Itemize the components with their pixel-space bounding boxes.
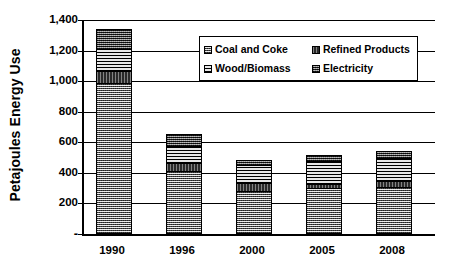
y-tickmark-800	[78, 112, 84, 113]
bar-2000-segment-wood-biomass	[237, 165, 271, 183]
y-axis-title-text: Petajoules Energy Use	[7, 48, 23, 201]
gridline-800	[84, 112, 435, 113]
y-tickmark-600	[78, 142, 84, 143]
bar-1996-segment-refined-products	[167, 163, 201, 171]
bar-1996-segment-coal-and-coke	[167, 171, 201, 233]
bar-2000-segment-coal-and-coke	[237, 191, 271, 233]
legend-item-refined-products[interactable]: Refined Products	[312, 44, 413, 55]
y-axis-title: Petajoules Energy Use	[0, 0, 30, 250]
bar-2000-segment-refined-products	[237, 183, 271, 191]
wood-biomass-swatch-icon	[204, 65, 212, 73]
bar-1996-segment-electricity	[167, 135, 201, 146]
legend-item-coal-and-coke[interactable]: Coal and Coke	[204, 44, 312, 55]
legend-label-coal-and-coke: Coal and Coke	[215, 44, 288, 55]
bar-1990-segment-electricity	[97, 30, 131, 49]
legend-label-wood-biomass: Wood/Biomass	[215, 63, 291, 74]
bar-2008-segment-wood-biomass	[377, 158, 411, 181]
bar-2005	[306, 155, 342, 234]
bar-1996	[166, 134, 202, 234]
bar-2005-segment-wood-biomass	[307, 161, 341, 184]
y-tick-label-800: 800	[34, 106, 78, 118]
chart-legend: Coal and Coke Refined Products Wood/Biom…	[199, 36, 418, 81]
bar-2008-segment-coal-and-coke	[377, 187, 411, 233]
x-tick-label-2008: 2008	[379, 244, 405, 256]
y-tickmark-400	[78, 173, 84, 174]
y-axis-tick-labels: 1,400 1,200 1,000 800 600 400 200 -	[30, 0, 78, 279]
y-tick-label-1000: 1,000	[34, 75, 78, 87]
x-tick-label-2005: 2005	[309, 244, 335, 256]
refined-products-swatch-icon	[312, 46, 320, 54]
y-tick-label-0: -	[34, 227, 78, 240]
x-tick-label-2000: 2000	[239, 244, 265, 256]
bar-2005-segment-coal-and-coke	[307, 188, 341, 233]
bar-1990-segment-wood-biomass	[97, 49, 131, 71]
legend-label-refined-products: Refined Products	[323, 44, 410, 55]
bar-1996-segment-wood-biomass	[167, 146, 201, 163]
gridline-1400	[84, 20, 435, 21]
bar-2000	[236, 160, 272, 234]
y-tick-label-1400: 1,400	[34, 14, 78, 26]
y-tickmark-1200	[78, 51, 84, 52]
x-tick-label-1990: 1990	[99, 244, 125, 256]
gridline-1000	[84, 81, 435, 82]
y-tick-label-400: 400	[34, 167, 78, 179]
y-tick-label-1200: 1,200	[34, 45, 78, 57]
bar-1990-segment-refined-products	[97, 71, 131, 83]
electricity-swatch-icon	[312, 65, 320, 73]
y-tick-label-200: 200	[34, 198, 78, 210]
bar-1990-segment-coal-and-coke	[97, 83, 131, 233]
legend-item-electricity[interactable]: Electricity	[312, 63, 413, 74]
bar-1990	[96, 29, 132, 234]
y-tickmark-0	[78, 234, 84, 235]
legend-row: Coal and Coke Refined Products	[204, 40, 413, 59]
y-tickmark-1400	[78, 20, 84, 21]
y-tickmark-200	[78, 203, 84, 204]
coal-and-coke-swatch-icon	[204, 46, 212, 54]
y-tick-label-600: 600	[34, 137, 78, 149]
legend-item-wood-biomass[interactable]: Wood/Biomass	[204, 63, 312, 74]
y-tickmark-1000	[78, 81, 84, 82]
legend-label-electricity: Electricity	[323, 63, 373, 74]
stacked-bar-chart: Petajoules Energy Use 1,400 1,200 1,000 …	[0, 0, 455, 279]
legend-row: Wood/Biomass Electricity	[204, 59, 413, 78]
bar-2008	[376, 151, 412, 234]
gridline-600	[84, 142, 435, 143]
x-tick-label-1996: 1996	[169, 244, 195, 256]
